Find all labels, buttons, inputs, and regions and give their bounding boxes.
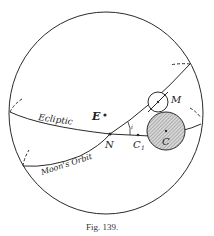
earth-point bbox=[103, 113, 106, 116]
earth-label: E bbox=[91, 110, 101, 123]
inclination-label: i bbox=[131, 123, 133, 130]
celestial-sphere-diagram: E M N C 1 C i Ecliptic Moon's Orbit Fig.… bbox=[0, 0, 214, 236]
shadow-label: C bbox=[162, 136, 170, 147]
ecliptic-back-dash-right bbox=[190, 108, 201, 118]
moon-orbit-back-dash-right bbox=[170, 64, 190, 65]
c1-point bbox=[137, 134, 140, 137]
moon-orbit-label: Moon's Orbit bbox=[39, 152, 94, 178]
node-point bbox=[108, 132, 111, 135]
figure-caption: Fig. 139. bbox=[86, 222, 118, 232]
moon-orbit-back-dash-left bbox=[23, 150, 29, 166]
shadow-center-point bbox=[165, 130, 167, 132]
moon-label: M bbox=[170, 94, 182, 105]
c1-label: C bbox=[133, 139, 141, 150]
node-label: N bbox=[104, 139, 115, 150]
c1-subscript: 1 bbox=[141, 144, 145, 151]
inclination-arc bbox=[128, 122, 130, 135]
ecliptic-back-dash-left bbox=[10, 99, 22, 112]
moon-center-point bbox=[157, 101, 159, 103]
ecliptic-label: Ecliptic bbox=[37, 112, 74, 127]
